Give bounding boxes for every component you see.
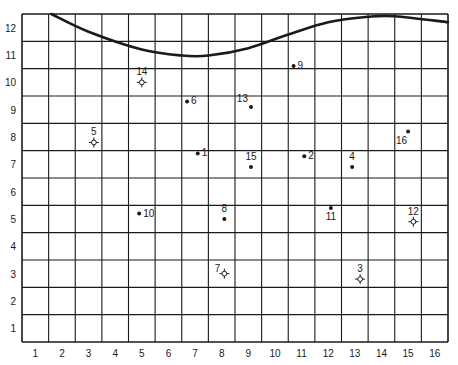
y-tick-label: 8	[10, 132, 16, 143]
y-tick-label: 1	[10, 323, 16, 334]
star-marker-icon	[219, 269, 229, 279]
dot-marker-icon	[292, 64, 296, 68]
point-9: 9	[292, 60, 304, 71]
dot-marker-icon	[406, 130, 410, 134]
y-tick-label: 10	[5, 77, 17, 88]
boundary-curve	[51, 14, 448, 56]
y-tick-label: 11	[6, 50, 17, 61]
point-11: 11	[326, 206, 337, 222]
y-tick-label: 2	[10, 296, 16, 307]
point-label: 6	[191, 95, 197, 106]
point-8: 8	[222, 203, 228, 221]
dot-marker-icon	[222, 217, 226, 221]
star-marker-icon	[89, 137, 99, 147]
x-tick-label: 5	[139, 348, 145, 359]
point-14: 14	[136, 66, 148, 87]
point-label: 7	[215, 263, 221, 274]
point-label: 9	[298, 60, 304, 71]
dot-marker-icon	[350, 165, 354, 169]
point-label: 12	[408, 206, 420, 217]
coordinate-grid: 12345678910111213141516 123456789101112 …	[0, 0, 458, 365]
point-2: 2	[302, 150, 314, 161]
point-5: 5	[89, 126, 99, 147]
point-12: 12	[408, 206, 420, 227]
point-1: 1	[196, 147, 208, 158]
star-marker-icon	[408, 217, 418, 227]
point-label: 2	[308, 150, 314, 161]
point-3: 3	[355, 263, 365, 284]
point-7: 7	[215, 263, 230, 279]
y-tick-label: 9	[10, 105, 16, 116]
y-axis-labels: 123456789101112	[5, 23, 17, 335]
point-4: 4	[349, 151, 355, 169]
point-label: 11	[326, 211, 337, 222]
x-tick-label: 4	[112, 348, 118, 359]
dot-marker-icon	[137, 212, 141, 216]
x-tick-label: 3	[86, 348, 92, 359]
point-markers: 12345678910111213141516	[89, 60, 419, 284]
grid-lines	[22, 14, 448, 342]
point-label: 16	[396, 135, 408, 146]
y-tick-label: 5	[10, 214, 16, 225]
dot-marker-icon	[302, 154, 306, 158]
y-tick-label: 4	[10, 241, 16, 252]
x-tick-label: 2	[59, 348, 65, 359]
x-tick-label: 15	[403, 348, 415, 359]
x-tick-label: 6	[166, 348, 172, 359]
star-marker-icon	[355, 274, 365, 284]
x-tick-label: 16	[429, 348, 441, 359]
y-tick-label: 3	[10, 269, 16, 280]
point-label: 15	[245, 151, 257, 162]
point-label: 13	[237, 93, 249, 104]
point-6: 6	[185, 95, 197, 106]
x-tick-label: 1	[33, 348, 39, 359]
x-tick-label: 7	[192, 348, 198, 359]
dot-marker-icon	[249, 105, 253, 109]
point-label: 8	[222, 203, 228, 214]
point-15: 15	[245, 151, 257, 169]
x-axis-labels: 12345678910111213141516	[33, 348, 441, 359]
point-label: 4	[349, 151, 355, 162]
dot-marker-icon	[196, 151, 200, 155]
point-label: 3	[357, 263, 363, 274]
dot-marker-icon	[329, 206, 333, 210]
x-tick-label: 9	[246, 348, 252, 359]
point-label: 5	[91, 126, 97, 137]
point-13: 13	[237, 93, 253, 109]
x-tick-label: 13	[349, 348, 361, 359]
y-tick-label: 7	[10, 159, 16, 170]
x-tick-label: 8	[219, 348, 225, 359]
grid-diagram: 12345678910111213141516 123456789101112 …	[0, 0, 458, 365]
x-tick-label: 11	[296, 348, 307, 359]
point-label: 1	[202, 147, 208, 158]
star-marker-icon	[137, 77, 147, 87]
y-tick-label: 12	[5, 23, 17, 34]
dot-marker-icon	[185, 99, 189, 103]
dot-marker-icon	[249, 165, 253, 169]
x-tick-label: 10	[269, 348, 281, 359]
x-tick-label: 12	[323, 348, 335, 359]
y-tick-label: 6	[10, 187, 16, 198]
x-tick-label: 14	[376, 348, 388, 359]
point-label: 10	[143, 208, 155, 219]
point-label: 14	[136, 66, 148, 77]
point-10: 10	[137, 208, 155, 219]
point-16: 16	[396, 130, 410, 146]
